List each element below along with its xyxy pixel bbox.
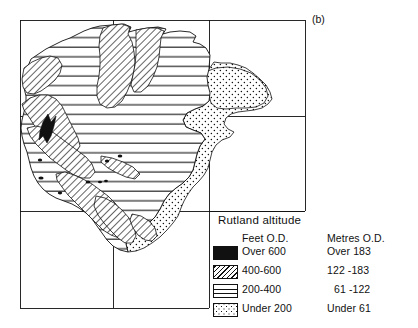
legend-rows: Over 600 Over 183 400-600 122 -183 200-4…: [213, 244, 418, 320]
legend-header-metres: Metres O.D.: [327, 232, 385, 244]
horizontal-line-swatch: [213, 284, 238, 298]
legend-row-under-200: Under 200 Under 61: [213, 301, 418, 320]
legend-label-feet-over-600: Over 600: [242, 245, 286, 257]
legend-row-over-600: Over 600 Over 183: [213, 244, 418, 263]
diagonal-hatch-swatch: [213, 265, 238, 279]
legend-label-metres-over-183: Over 183: [327, 245, 371, 257]
legend-label-feet-under-200: Under 200: [242, 302, 292, 314]
legend-label-metres-under-61: Under 61: [327, 302, 371, 314]
stipple-dot-swatch: [213, 303, 238, 317]
legend-label-metres-122-183: 122 -183: [327, 264, 369, 276]
legend-row-200-400: 200-400 61 -122: [213, 282, 418, 301]
panel-label: (b): [312, 13, 325, 25]
legend: Rutland altitude Feet O.D. Metres O.D. O…: [213, 214, 418, 328]
legend-label-metres-61-122: 61 -122: [334, 283, 370, 295]
legend-row-400-600: 400-600 122 -183: [213, 263, 418, 282]
legend-label-feet-200-400: 200-400: [242, 283, 281, 295]
legend-header-feet: Feet O.D.: [242, 232, 288, 244]
legend-title: Rutland altitude: [218, 214, 301, 226]
legend-label-feet-400-600: 400-600: [242, 264, 281, 276]
figure-panel-b: (b) Rutland altitude Feet O.D. Metres O.…: [0, 0, 418, 328]
solid-black-swatch: [213, 246, 238, 260]
